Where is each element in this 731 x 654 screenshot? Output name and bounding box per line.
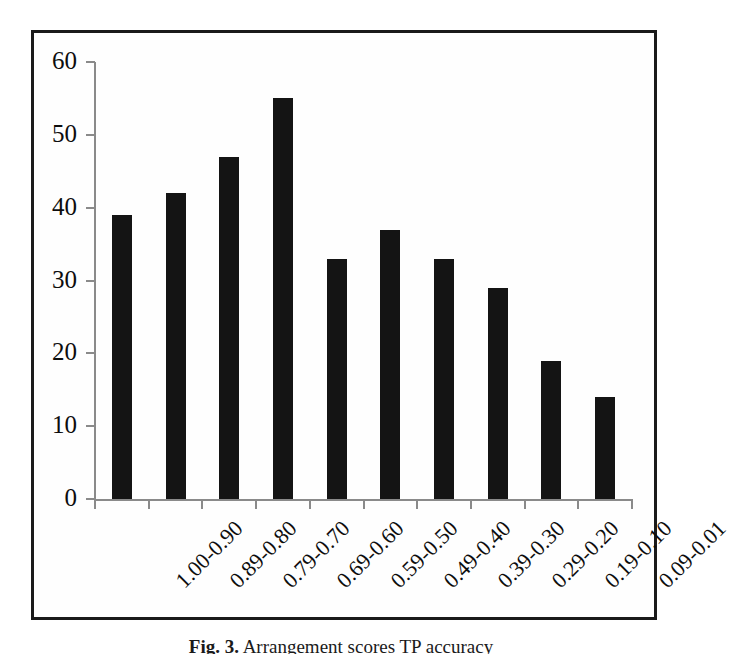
y-tick-label-40: 40 [52,195,77,219]
x-tick-1 [148,499,150,509]
figure-caption: Fig. 3. Arrangement scores TP accuracy [0,636,682,654]
x-tick-9 [577,499,579,509]
y-tick-label-20: 20 [52,340,77,364]
x-tick-6 [416,499,418,509]
x-tick-2 [201,499,203,509]
x-tick-7 [470,499,472,509]
y-tick-60: 60 [86,61,95,63]
x-tick-4 [309,499,311,509]
x-tick-5 [363,499,365,509]
x-tick-10 [631,499,633,509]
y-tick-30: 30 [86,280,95,282]
x-tick-0 [94,499,96,509]
y-tick-50: 50 [86,134,95,136]
y-tick-label-50: 50 [52,122,77,146]
bar [488,288,508,499]
bar [595,397,615,499]
bar [166,193,186,499]
figure-frame: 0102030405060 1.00-0.900.89-0.800.79-0.7… [31,30,657,620]
y-tick-label-60: 60 [52,49,77,73]
bar [219,157,239,499]
bar [380,230,400,499]
y-tick-label-10: 10 [52,413,77,437]
bar [273,98,293,499]
x-tick-8 [524,499,526,509]
x-tick-3 [255,499,257,509]
bar [112,215,132,499]
figure-caption-text: Arrangement scores TP accuracy [243,636,494,654]
bar [541,361,561,499]
figure-caption-label: Fig. 3. [189,636,239,654]
y-tick-20: 20 [86,352,95,354]
y-tick-40: 40 [86,207,95,209]
y-tick-label-0: 0 [65,486,78,510]
bar [434,259,454,499]
bar-chart: 0102030405060 1.00-0.900.89-0.800.79-0.7… [34,33,654,617]
y-tick-label-30: 30 [52,268,77,292]
y-tick-10: 10 [86,425,95,427]
bars-layer [96,62,633,499]
bar [327,259,347,499]
